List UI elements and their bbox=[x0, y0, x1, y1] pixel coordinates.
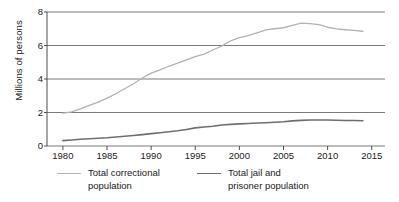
y-axis-tick-labels: 02468 bbox=[19, 0, 43, 160]
plot-area bbox=[47, 12, 385, 146]
series-line-1 bbox=[63, 23, 363, 113]
y-tick-label: 0 bbox=[21, 141, 43, 151]
plot-svg bbox=[47, 12, 385, 146]
x-tick-label: 1995 bbox=[175, 151, 215, 161]
series-line-2 bbox=[63, 120, 363, 141]
x-tick-label: 1985 bbox=[87, 151, 127, 161]
chart-legend: Total correctionalpopulationTotal jail a… bbox=[0, 167, 399, 202]
y-tick-label: 2 bbox=[21, 108, 43, 118]
legend-label: Total jail andprisoner population bbox=[228, 167, 309, 192]
legend-label-line1: Total jail and bbox=[228, 167, 309, 180]
x-tick-label: 2015 bbox=[352, 151, 392, 161]
legend-swatch-line-icon bbox=[197, 173, 221, 174]
y-tick-label: 4 bbox=[21, 74, 43, 84]
x-tick-label: 2000 bbox=[219, 151, 259, 161]
series-lines bbox=[63, 23, 363, 141]
legend-swatch-line-icon bbox=[57, 173, 81, 174]
x-tick-label: 2005 bbox=[264, 151, 304, 161]
y-tick-label: 8 bbox=[21, 7, 43, 17]
x-tick-label: 1980 bbox=[43, 151, 83, 161]
legend-label-line1: Total correctional bbox=[88, 167, 160, 180]
legend-label-line2: prisoner population bbox=[228, 180, 309, 193]
y-tick-label: 6 bbox=[21, 41, 43, 51]
line-chart-figure: Millions of persons 02468 19801985199019… bbox=[0, 0, 399, 202]
legend-label: Total correctionalpopulation bbox=[88, 167, 160, 192]
legend-label-line2: population bbox=[88, 180, 160, 193]
x-tick-label: 1990 bbox=[131, 151, 171, 161]
x-tick-label: 2010 bbox=[308, 151, 348, 161]
